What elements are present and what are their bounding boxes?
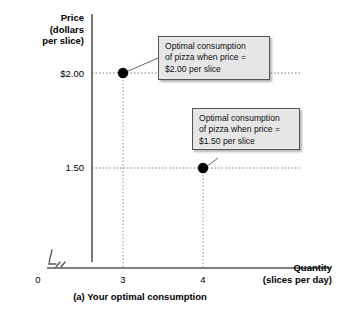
x-axis-title-line2: (slices per day) [232,274,332,286]
y-tick-label-150: 1.50 [22,162,84,173]
callout-2-line1: Optimal consumption [199,113,294,124]
y-axis-title-line3: per slice) [18,35,84,47]
callout-1-line2: of pizza when price = [165,52,264,63]
y-tick-label-200: $2.00 [22,68,84,79]
callout-2-line3: $1.50 per slice [199,136,294,147]
callout-box-price-150: Optimal consumption of pizza when price … [192,108,300,150]
x-axis-title-line1: Quantity [232,262,332,274]
chart-figure: Price (dollars per slice) Quantity (slic… [0,0,337,316]
axis-break-symbol [49,250,65,267]
figure-caption: (a) Your optimal consumption [0,291,280,302]
leader-line-callout-1 [126,58,158,72]
callout-1-line1: Optimal consumption [165,41,264,52]
data-point-price-150 [198,163,208,173]
x-axis-title: Quantity (slices per day) [232,262,332,285]
y-axis-title: Price (dollars per slice) [18,12,84,47]
callout-2-line2: of pizza when price = [199,124,294,135]
y-axis-title-line1: Price [18,12,84,24]
data-point-price-200 [118,68,128,78]
callout-box-price-200: Optimal consumption of pizza when price … [158,36,270,80]
x-tick-label-0: 0 [31,274,45,285]
leader-line-callout-2 [206,158,218,167]
x-tick-label-4: 4 [196,274,210,285]
callout-1-line3: $2.00 per slice [165,64,264,75]
x-tick-label-3: 3 [116,274,130,285]
y-axis-title-line2: (dollars [18,24,84,36]
